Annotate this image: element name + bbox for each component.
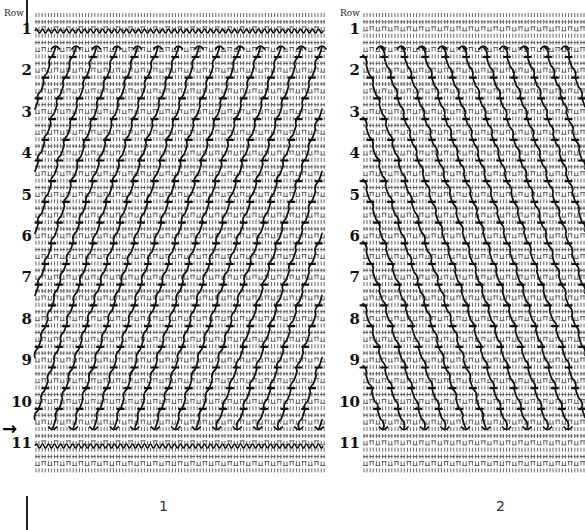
panel-caption-1: 1 xyxy=(159,498,168,514)
panel-2: Row 1234567891011 2 xyxy=(330,0,585,530)
stitch-grid-1 xyxy=(0,0,330,480)
panel-caption-2: 2 xyxy=(496,498,505,514)
stitch-grid-2 xyxy=(330,0,585,480)
panel-1: Row 1234567891011 → 1 xyxy=(0,0,330,530)
